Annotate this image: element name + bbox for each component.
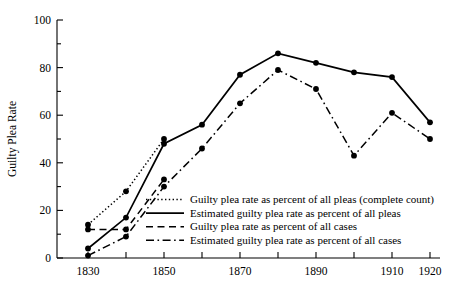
- data-point: [389, 110, 395, 116]
- y-tick-label: 80: [40, 62, 52, 74]
- data-point: [123, 215, 129, 221]
- data-point: [427, 119, 433, 125]
- data-point: [427, 136, 433, 142]
- y-tick-label: 60: [40, 109, 52, 121]
- data-point: [389, 74, 395, 80]
- y-tick-label: 40: [40, 157, 52, 169]
- data-point: [161, 141, 167, 147]
- series-line-2: [88, 179, 164, 229]
- x-tick-label: 1850: [153, 265, 176, 277]
- data-point: [275, 50, 281, 56]
- legend-label-0: Guilty plea rate as percent of all pleas…: [190, 193, 434, 206]
- data-point: [275, 67, 281, 73]
- data-point: [85, 227, 91, 233]
- legend-label-2: Guilty plea rate as percent of all cases: [190, 220, 357, 232]
- x-tick-label: 1890: [305, 265, 328, 277]
- line-chart: 020406080100183018501870189019101920 Gui…: [0, 0, 461, 293]
- data-point: [123, 227, 129, 233]
- data-point: [237, 72, 243, 78]
- x-tick-label: 1910: [381, 265, 404, 277]
- x-tick-label: 1870: [229, 265, 252, 277]
- data-point: [313, 86, 319, 92]
- data-point: [161, 184, 167, 190]
- data-point: [161, 177, 167, 183]
- y-tick-label: 100: [34, 14, 52, 26]
- data-point: [123, 234, 129, 240]
- data-point: [199, 122, 205, 128]
- data-point: [237, 100, 243, 106]
- data-point: [85, 246, 91, 252]
- data-point: [351, 153, 357, 159]
- x-tick-label: 1920: [419, 265, 442, 277]
- data-point: [123, 188, 129, 194]
- y-axis-title: Guilty Plea Rate: [6, 101, 19, 177]
- legend-label-3: Estimated guilty plea rate as percent of…: [190, 234, 401, 246]
- chart-legend: Guilty plea rate as percent of all pleas…: [146, 193, 434, 246]
- data-point: [351, 69, 357, 75]
- data-point: [199, 146, 205, 152]
- y-tick-label: 0: [45, 252, 51, 264]
- series-line-0: [88, 139, 164, 225]
- data-point: [313, 60, 319, 66]
- x-tick-label: 1830: [77, 265, 100, 277]
- legend-label-1: Estimated guilty plea rate as percent of…: [190, 207, 401, 219]
- y-tick-label: 20: [40, 204, 52, 216]
- data-point: [85, 253, 91, 259]
- chart-figure: 020406080100183018501870189019101920 Gui…: [0, 0, 461, 293]
